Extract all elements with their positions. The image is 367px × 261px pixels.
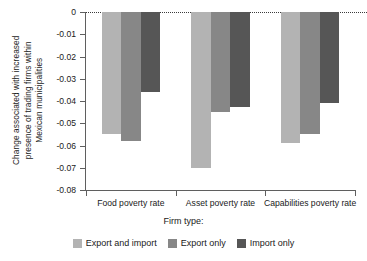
x-tick-label: Capabilities poverty rate [264,198,356,208]
bar [230,12,250,107]
x-tick-label: Asset poverty rate [186,198,255,208]
legend-label: Import only [250,238,295,248]
bar-chart-figure: Change associated with increased presenc… [0,0,367,261]
bar [102,12,122,134]
legend-swatch-icon [168,239,177,248]
plot-area [86,12,355,190]
bar [320,12,340,103]
legend-label: Export and import [86,238,157,248]
y-tick-label: -0.05 [16,118,76,128]
legend-label: Export only [181,238,226,248]
y-tick-label: -0.04 [16,96,76,106]
legend-title: Firm type: [0,216,367,226]
bar [191,12,211,168]
y-tick-label: -0.03 [16,74,76,84]
legend-swatch-icon [73,239,82,248]
x-tick-mark [176,190,177,196]
y-tick-label: -0.02 [16,52,76,62]
x-tick-label: Food poverty rate [97,198,164,208]
x-axis-line [85,190,356,191]
x-tick-mark [86,190,87,196]
bar [141,12,161,92]
legend-item[interactable]: Import only [237,238,295,248]
x-tick-mark [355,190,356,196]
x-tick-mark [265,190,266,196]
bar [211,12,231,112]
legend: Export and importExport onlyImport only [0,238,367,248]
bar [281,12,301,143]
y-tick-label: 0 [16,7,76,17]
bar [300,12,320,134]
y-tick-label: -0.06 [16,141,76,151]
legend-swatch-icon [237,239,246,248]
legend-item[interactable]: Export and import [73,238,157,248]
bar [121,12,141,141]
y-tick-label: -0.08 [16,185,76,195]
y-tick-label: -0.07 [16,163,76,173]
y-tick-label: -0.01 [16,29,76,39]
legend-item[interactable]: Export only [168,238,226,248]
